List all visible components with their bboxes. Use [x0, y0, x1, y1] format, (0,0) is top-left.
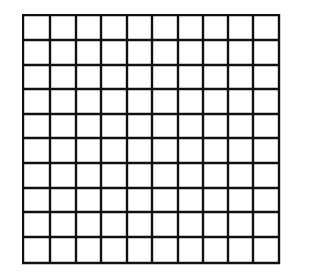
square-grid — [22, 14, 284, 268]
